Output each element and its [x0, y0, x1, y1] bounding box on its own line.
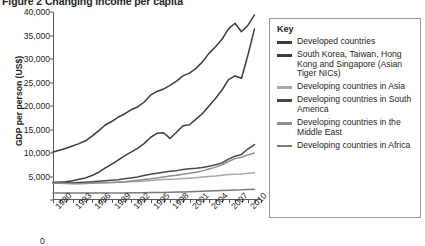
legend-item-label: South Korea, Taiwan, Hong Kong and Singa… [297, 50, 414, 79]
x-axis-tick-labels: 1980198319861989199219951998200120042007… [53, 204, 268, 238]
legend-item: Developing countries in Africa [277, 141, 414, 151]
figure-caption: Changing income per capita [45, 0, 183, 7]
legend-title: Key [277, 24, 414, 34]
legend-items: Developed countriesSouth Korea, Taiwan, … [277, 37, 414, 150]
legend-item-label: Developed countries [297, 37, 375, 47]
figure-title: Figure 2 Changing income per capita [2, 0, 183, 7]
legend-item: Developing countries in South America [277, 95, 414, 114]
legend-item-label: Developing countries in the Middle East [297, 118, 414, 137]
chart-lines [53, 12, 261, 200]
y-axis-tick-label: 15,000 [24, 125, 50, 135]
y-axis-tick-label: 40,000 [24, 7, 50, 17]
y-axis-tick-label: 10,000 [24, 148, 50, 158]
figure-number: Figure 2 [2, 0, 42, 7]
legend-swatch-line-icon [277, 54, 292, 57]
legend-box: Key Developed countriesSouth Korea, Taiw… [269, 18, 421, 218]
y-axis-tick-label: 30,000 [24, 54, 50, 64]
legend-swatch-line-icon [277, 145, 292, 148]
y-axis-tick-label: 25,000 [24, 78, 50, 88]
y-axis-zero-label: 0 [40, 236, 45, 246]
legend-item-label: Developing countries in Africa [297, 141, 410, 151]
y-axis-tick-label: 20,000 [24, 101, 50, 111]
legend-item: South Korea, Taiwan, Hong Kong and Singa… [277, 50, 414, 79]
series-line [53, 15, 255, 152]
legend-item-label: Developing countries in Asia [297, 82, 405, 92]
y-axis-tick-label: 5,000 [28, 172, 50, 182]
legend-item: Developed countries [277, 37, 414, 47]
legend-swatch-line-icon [277, 86, 292, 89]
legend-item-label: Developing countries in South America [297, 95, 414, 114]
legend-item: Developing countries in the Middle East [277, 118, 414, 137]
legend-item: Developing countries in Asia [277, 82, 414, 92]
plot-area [53, 12, 261, 200]
legend-swatch-line-icon [277, 41, 292, 44]
legend-swatch-line-icon [277, 122, 292, 125]
y-axis-tick-label: 35,000 [24, 31, 50, 41]
y-axis-tick-labels: 5,00010,00015,00020,00025,00030,00035,00… [12, 10, 50, 202]
series-line [53, 29, 255, 183]
legend-swatch-line-icon [277, 99, 292, 102]
